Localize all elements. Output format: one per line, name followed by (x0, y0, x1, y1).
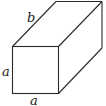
top-right-depth-edge (59, 2, 103, 47)
cuboid (13, 2, 103, 94)
cuboid-diagram: b a a (0, 0, 106, 106)
front-face (13, 47, 59, 94)
label-height-a: a (2, 64, 10, 79)
label-width-a: a (30, 93, 38, 106)
label-depth-b: b (27, 10, 35, 25)
bottom-right-depth-edge (59, 48, 103, 94)
